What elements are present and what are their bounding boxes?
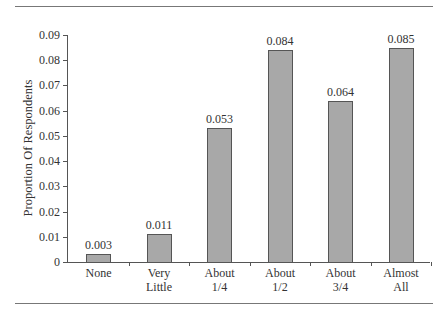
y-tick <box>63 60 67 61</box>
y-tick <box>63 111 67 112</box>
bar-value-label: 0.011 <box>146 218 173 233</box>
x-tick-label: Almost All <box>383 266 418 294</box>
bar <box>207 128 232 263</box>
x-tick <box>431 262 432 266</box>
y-tick <box>63 262 67 263</box>
x-axis <box>67 262 430 263</box>
bar <box>389 48 414 263</box>
y-axis <box>67 35 68 263</box>
y-tick-label: 0.07 <box>39 78 60 93</box>
x-tick <box>310 262 311 266</box>
bar <box>268 50 293 263</box>
x-tick-label: About 1/4 <box>205 266 235 294</box>
bar <box>147 234 172 263</box>
x-tick <box>129 262 130 266</box>
y-tick <box>63 212 67 213</box>
y-tick-label: 0 <box>54 255 60 270</box>
y-tick-label: 0.02 <box>39 204 60 219</box>
y-tick-label: 0.01 <box>39 229 60 244</box>
y-tick-label: 0.04 <box>39 154 60 169</box>
bar <box>328 101 353 263</box>
y-tick <box>63 161 67 162</box>
x-tick-label: About 3/4 <box>326 266 356 294</box>
y-tick <box>63 85 67 86</box>
x-tick-label: None <box>86 266 112 280</box>
y-tick-label: 0.03 <box>39 179 60 194</box>
y-tick <box>63 186 67 187</box>
bar-value-label: 0.085 <box>388 32 415 47</box>
x-tick-label: About 1/2 <box>265 266 295 294</box>
bar-value-label: 0.084 <box>267 34 294 49</box>
bottom-rule <box>15 303 433 304</box>
y-tick-label: 0.05 <box>39 128 60 143</box>
bar-value-label: 0.003 <box>85 238 112 253</box>
bar <box>86 254 111 263</box>
y-tick <box>63 35 67 36</box>
y-tick <box>63 136 67 137</box>
x-tick-label: Very Little <box>146 266 172 294</box>
top-rule <box>15 6 433 7</box>
y-tick-label: 0.06 <box>39 103 60 118</box>
x-tick <box>250 262 251 266</box>
x-tick <box>371 262 372 266</box>
y-tick-label: 0.09 <box>39 28 60 43</box>
y-tick <box>63 237 67 238</box>
bar-value-label: 0.053 <box>206 112 233 127</box>
bar-value-label: 0.064 <box>327 85 354 100</box>
y-tick-label: 0.08 <box>39 53 60 68</box>
y-axis-label: Proportion Of Respondents <box>21 80 36 217</box>
x-tick <box>189 262 190 266</box>
